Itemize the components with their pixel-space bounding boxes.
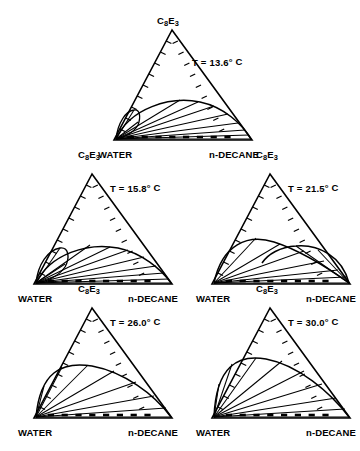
right-corner-label: n-DECANE	[128, 294, 178, 304]
apex-label-row2-right: C8E3	[256, 150, 278, 160]
temperature-value: T = 15.8	[110, 183, 147, 194]
tie-lines	[36, 245, 171, 283]
temperature-label: T = 13.6° C	[192, 58, 243, 68]
left-corner-label: WATER	[196, 428, 230, 438]
right-corner-label: n-DECANE	[128, 428, 178, 438]
apex-label-row2-left: C8E3	[78, 150, 100, 160]
temperature-unit: ° C	[325, 316, 339, 327]
temperature-unit: ° C	[147, 316, 161, 327]
right-corner-label: n-DECANE	[306, 294, 356, 304]
apex-label-row3-left: C8E3	[78, 284, 100, 294]
temperature-unit: ° C	[147, 182, 161, 193]
tie-lines	[116, 100, 251, 139]
temperature-label: T = 26.0° C	[110, 318, 161, 328]
temperature-unit: ° C	[325, 182, 339, 193]
temperature-value: T = 30.0	[288, 317, 325, 328]
ternary-phase-diagram-figure: C8E3 T = 13.6° C	[0, 0, 360, 451]
temperature-label: T = 21.5° C	[288, 184, 339, 194]
temperature-value: T = 13.6	[192, 57, 229, 68]
left-corner-label: WATER	[98, 150, 132, 160]
temperature-unit: ° C	[229, 56, 243, 67]
panel-26-0: T = 26.0° C	[22, 304, 182, 434]
right-corner-label: n-DECANE	[209, 150, 259, 160]
panel-30-0: T = 30.0° C	[200, 304, 360, 434]
temperature-label: T = 30.0° C	[288, 318, 339, 328]
right-corner-label: n-DECANE	[306, 428, 356, 438]
panel-21-5: T = 21.5° C	[200, 170, 360, 300]
panel-13-6: C8E3 T = 13.6° C	[100, 18, 265, 158]
left-corner-label: WATER	[18, 428, 52, 438]
temperature-value: T = 21.5	[288, 183, 325, 194]
binodal-curve	[116, 101, 251, 139]
panel-15-8: T = 15.8° C	[22, 170, 182, 300]
apex-label: C8E3	[157, 16, 179, 26]
left-corner-label: WATER	[18, 294, 52, 304]
tie-lines	[36, 365, 171, 417]
apex-label-row3-right: C8E3	[256, 284, 278, 294]
temperature-label: T = 15.8° C	[110, 184, 161, 194]
ternary-triangle	[100, 18, 265, 150]
temperature-value: T = 26.0	[110, 317, 147, 328]
left-corner-label: WATER	[196, 294, 230, 304]
